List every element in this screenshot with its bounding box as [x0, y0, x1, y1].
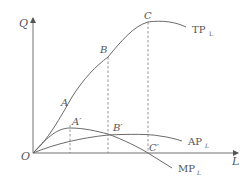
tp-label: TP L: [192, 24, 213, 37]
point-a-prime-label: A′: [71, 116, 82, 127]
point-c-label: C: [144, 10, 152, 21]
ap-curve: [33, 134, 182, 153]
point-b-prime-label: B′: [112, 122, 123, 133]
production-diagram: Q L O A B C A′ B′ C′ TP L AP L MP L: [0, 0, 252, 180]
x-axis-label: L: [231, 155, 239, 168]
point-a-label: A: [60, 97, 68, 108]
ap-label: AP L: [187, 136, 209, 149]
point-b-label: B: [99, 44, 107, 55]
svg-text:L: L: [209, 30, 213, 37]
mp-label: MP L: [178, 163, 201, 176]
tp-curve: [33, 21, 186, 153]
point-c-prime-label: C′: [149, 142, 160, 153]
y-axis-label: Q: [19, 17, 28, 30]
svg-text:L: L: [204, 142, 209, 149]
svg-text:MP: MP: [178, 163, 195, 174]
svg-text:TP: TP: [192, 24, 206, 35]
svg-text:AP: AP: [187, 136, 202, 147]
origin-label: O: [21, 150, 30, 163]
svg-text:L: L: [196, 169, 201, 176]
